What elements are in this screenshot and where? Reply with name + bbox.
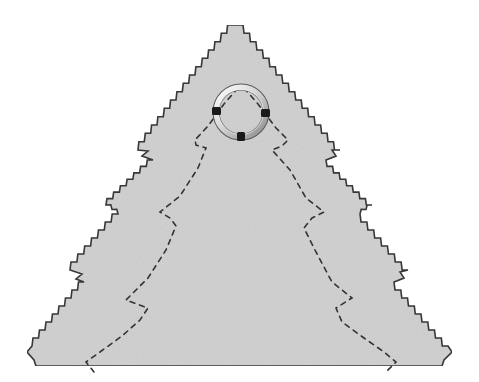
ornament-illustration: Felt tree ornament template bbox=[0, 0, 479, 382]
ring-clamp-right bbox=[261, 109, 270, 117]
ring-clamp-bottom bbox=[237, 132, 245, 141]
ring-clamp-left bbox=[212, 107, 221, 115]
tree-shape bbox=[27, 25, 452, 366]
tree-ornament-artwork bbox=[0, 0, 479, 382]
